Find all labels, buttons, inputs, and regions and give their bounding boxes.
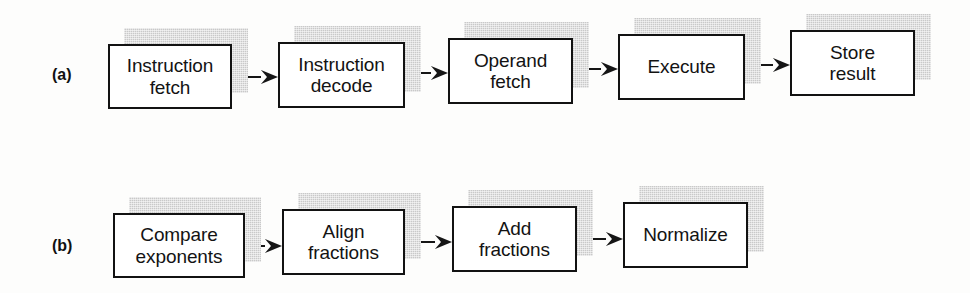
- stage-box: Compare exponents: [113, 213, 245, 278]
- arrow-head-icon: [606, 232, 623, 246]
- stage-box: Add fractions: [452, 206, 577, 272]
- figure-canvas: (a)Instruction fetchInstruction decodeOp…: [0, 0, 970, 293]
- stage-box: Instruction decode: [278, 42, 405, 108]
- arrow-head-icon: [435, 235, 452, 249]
- pipeline-stage: Add fractions: [452, 206, 577, 272]
- stage-label: Instruction decode: [298, 54, 385, 97]
- pipeline-stage: Instruction fetch: [108, 44, 232, 109]
- arrow-head-icon: [601, 62, 618, 76]
- arrow-head-icon: [773, 58, 790, 72]
- stage-box: Normalize: [623, 202, 748, 268]
- pipeline-stage: Execute: [618, 34, 745, 100]
- pipeline-stage: Compare exponents: [113, 213, 245, 278]
- pipeline-stage: Store result: [790, 30, 915, 96]
- stage-box: Store result: [790, 30, 915, 96]
- stage-label: Operand fetch: [474, 50, 547, 93]
- stage-box: Execute: [618, 34, 745, 100]
- stage-label: Compare exponents: [136, 224, 223, 267]
- arrow-head-icon: [261, 70, 278, 84]
- stage-label: Execute: [648, 56, 716, 77]
- row-label-a: (a): [52, 67, 72, 83]
- stage-label: Add fractions: [479, 218, 550, 261]
- arrow-head-icon: [431, 66, 448, 80]
- pipeline-stage: Normalize: [623, 202, 748, 268]
- stage-label: Align fractions: [308, 221, 379, 264]
- arrow-head-icon: [265, 239, 282, 253]
- pipeline-stage: Instruction decode: [278, 42, 405, 108]
- stage-label: Instruction fetch: [127, 55, 214, 98]
- stage-box: Operand fetch: [448, 38, 573, 104]
- stage-box: Instruction fetch: [108, 44, 232, 109]
- pipeline-stage: Align fractions: [282, 209, 405, 275]
- pipeline-stage: Operand fetch: [448, 38, 573, 104]
- stage-label: Store result: [830, 42, 876, 85]
- stage-label: Normalize: [643, 224, 728, 245]
- row-label-b: (b): [52, 238, 72, 254]
- stage-box: Align fractions: [282, 209, 405, 275]
